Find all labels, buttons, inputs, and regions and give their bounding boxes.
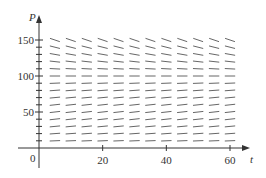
slope-segment bbox=[82, 38, 92, 41]
slope-segment bbox=[209, 38, 219, 41]
slope-segment bbox=[130, 38, 140, 41]
slope-segment bbox=[113, 53, 123, 55]
slope-segment bbox=[82, 90, 92, 91]
slope-segment bbox=[66, 90, 76, 91]
slope-segment bbox=[97, 133, 107, 134]
slope-segment bbox=[209, 111, 219, 112]
slope-segment bbox=[145, 38, 155, 41]
slope-segment bbox=[50, 90, 60, 91]
slope-segment bbox=[129, 90, 139, 91]
slope-segment bbox=[66, 126, 76, 127]
y-tick-label: 150 bbox=[18, 34, 35, 46]
slope-segment bbox=[113, 133, 123, 134]
slope-segment bbox=[177, 38, 187, 41]
slope-segment bbox=[193, 119, 203, 120]
slope-segment bbox=[161, 69, 171, 70]
slope-segment bbox=[177, 61, 187, 62]
slope-segment bbox=[193, 90, 203, 91]
ticks bbox=[35, 40, 230, 151]
slope-segment bbox=[209, 90, 219, 91]
slope-segment bbox=[209, 104, 219, 105]
slope-segment bbox=[97, 69, 107, 70]
slope-segment bbox=[209, 46, 219, 49]
slope-segment bbox=[225, 69, 235, 70]
slope-segment bbox=[193, 97, 203, 98]
y-axis-label: P bbox=[28, 11, 36, 23]
slope-segment bbox=[97, 90, 107, 91]
slope-segment bbox=[161, 90, 171, 91]
slope-segment bbox=[161, 104, 171, 105]
slope-segment bbox=[145, 111, 155, 112]
slope-segment bbox=[66, 69, 76, 70]
slope-segment bbox=[177, 90, 187, 91]
slope-segment bbox=[50, 119, 60, 120]
slope-segment bbox=[177, 104, 187, 105]
slope-segment bbox=[129, 69, 139, 70]
slope-segment bbox=[129, 46, 139, 49]
slope-segment bbox=[161, 53, 171, 55]
slope-segment bbox=[161, 126, 171, 127]
x-tick-label: 20 bbox=[97, 154, 109, 166]
slope-segment bbox=[82, 46, 92, 49]
slope-segment bbox=[161, 38, 171, 41]
slope-segment bbox=[193, 133, 203, 134]
slope-segment bbox=[113, 61, 123, 62]
slope-segment bbox=[113, 69, 123, 70]
slope-segment bbox=[177, 126, 187, 127]
slope-segment bbox=[114, 38, 124, 41]
slope-segment bbox=[193, 111, 203, 112]
slope-segment bbox=[161, 97, 171, 98]
x-axis-label: t bbox=[250, 153, 254, 165]
slope-segment bbox=[225, 97, 235, 98]
slope-segment bbox=[50, 133, 60, 134]
slope-segment bbox=[97, 104, 107, 105]
slope-field-chart: 20406050100150 P t 0 bbox=[0, 0, 266, 178]
slope-segment bbox=[145, 133, 155, 134]
slope-segment bbox=[209, 126, 219, 127]
slope-segment bbox=[161, 111, 171, 112]
slope-segment bbox=[177, 133, 187, 134]
slope-segment bbox=[97, 111, 107, 112]
slope-segment bbox=[82, 61, 92, 62]
slope-segment bbox=[145, 104, 155, 105]
slope-segment bbox=[113, 126, 123, 127]
slope-segment bbox=[66, 119, 76, 120]
slope-segment bbox=[209, 53, 219, 55]
slope-segment bbox=[129, 97, 139, 98]
slope-segment bbox=[193, 61, 203, 62]
slope-segment bbox=[193, 38, 203, 41]
slope-segment bbox=[225, 133, 235, 134]
slope-segment bbox=[177, 111, 187, 112]
slope-segment bbox=[129, 133, 139, 134]
slope-segment bbox=[161, 119, 171, 120]
slope-segment bbox=[129, 53, 139, 55]
slope-segment bbox=[145, 46, 155, 49]
slope-segment bbox=[82, 126, 92, 127]
slope-segment bbox=[225, 111, 235, 112]
slope-segment bbox=[145, 119, 155, 120]
slope-segment bbox=[225, 90, 235, 91]
slope-segment bbox=[193, 69, 203, 70]
slope-segment bbox=[193, 46, 203, 49]
slope-segment bbox=[50, 104, 60, 105]
y-axis-arrow-icon bbox=[36, 15, 42, 23]
slope-segment bbox=[129, 126, 139, 127]
slope-segment bbox=[177, 97, 187, 98]
slope-segment bbox=[225, 104, 235, 105]
slope-segment bbox=[66, 133, 76, 134]
axes bbox=[18, 15, 250, 168]
slope-segment bbox=[129, 111, 139, 112]
slope-segment bbox=[225, 38, 235, 41]
slope-segment bbox=[50, 53, 60, 55]
slope-segment bbox=[97, 61, 107, 62]
slope-segment bbox=[50, 61, 60, 62]
slope-segment bbox=[193, 53, 203, 55]
slope-segment bbox=[209, 61, 219, 62]
slope-segment bbox=[82, 133, 92, 134]
slope-segment bbox=[113, 90, 123, 91]
slope-segment bbox=[50, 69, 60, 70]
slope-segment bbox=[177, 53, 187, 55]
slope-segment bbox=[209, 119, 219, 120]
slope-segment bbox=[97, 119, 107, 120]
slope-segment bbox=[193, 126, 203, 127]
